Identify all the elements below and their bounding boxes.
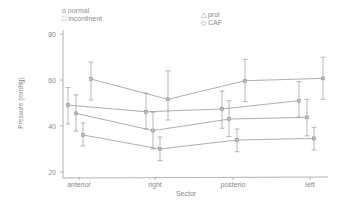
series-line	[76, 113, 307, 130]
y-tick-label: 80	[48, 31, 56, 38]
y-tick-label: 20	[48, 169, 56, 176]
legend-item-normal: o normal	[62, 7, 90, 14]
data-point-marker	[167, 98, 170, 101]
legend: o normal □ incontinent △ prol ◇ CAF	[62, 7, 222, 26]
series-incontinent	[66, 82, 302, 129]
series-group	[66, 57, 326, 161]
line-chart: o normal □ incontinent △ prol ◇ CAF 2040…	[0, 0, 341, 205]
y-tick-label: 60	[48, 77, 56, 84]
data-point-marker	[145, 110, 148, 113]
data-point-marker	[221, 107, 224, 110]
data-point-marker	[67, 104, 70, 107]
legend-item-caf: ◇ CAF	[201, 19, 222, 26]
axes: 20406080anteriorrightposterioleft	[48, 30, 328, 189]
data-point-marker	[90, 78, 93, 81]
data-point-marker	[313, 137, 316, 140]
data-point-marker	[82, 133, 85, 136]
series-normal	[89, 57, 326, 120]
legend-item-prol: △ prol	[201, 11, 220, 19]
x-axis-label: Sector	[176, 190, 197, 197]
x-tick-label: right	[148, 181, 162, 189]
x-tick-label: left	[305, 181, 314, 188]
series-caf	[81, 123, 317, 161]
series-line	[91, 78, 323, 99]
data-point-marker	[244, 79, 247, 82]
data-point-marker	[152, 129, 155, 132]
legend-item-incontinent: □ incontinent	[62, 15, 102, 22]
data-point-marker	[298, 99, 301, 102]
x-tick-label: anterior	[67, 181, 91, 188]
y-axis-label: Pressure (mmHg)	[17, 77, 25, 128]
series-line	[68, 101, 299, 112]
x-axis-line	[63, 177, 328, 178]
data-point-marker	[306, 116, 309, 119]
data-point-marker	[159, 148, 162, 151]
y-tick-label: 40	[48, 123, 56, 130]
x-tick-label: posterio	[221, 181, 246, 189]
data-point-marker	[75, 112, 78, 115]
series-line	[83, 135, 314, 149]
data-point-marker	[228, 118, 231, 121]
data-point-marker	[322, 77, 325, 80]
data-point-marker	[236, 139, 239, 142]
